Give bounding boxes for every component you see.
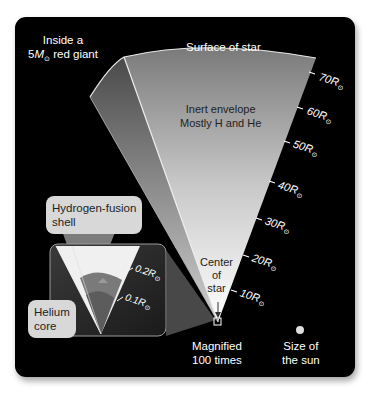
helium-core-callout: Helium core (28, 300, 76, 338)
magnified-line1: Magnified (192, 339, 242, 353)
sun-size-dot (296, 326, 304, 334)
center-line1: Center (200, 256, 233, 269)
title-suffix: red giant (50, 48, 98, 60)
diagram-title: Inside a 5M⊙ red giant (28, 33, 98, 66)
envelope-line1: Inert envelope (180, 102, 261, 116)
hydrogen-line1: Hydrogen-fusion (52, 201, 136, 215)
title-line2: 5M⊙ red giant (28, 47, 98, 66)
hydrogen-line2: shell (52, 215, 136, 229)
center-line3: star (200, 282, 233, 295)
red-giant-diagram: Inside a 5M⊙ red giant Surface of star I… (0, 0, 369, 395)
title-line1: Inside a (28, 33, 98, 47)
hydrogen-fusion-callout: Hydrogen-fusion shell (46, 196, 142, 234)
center-label: Center of star (200, 256, 233, 295)
center-line2: of (200, 269, 233, 282)
sun-line2: the sun (282, 353, 320, 367)
title-mass-symbol: M (34, 48, 44, 60)
surface-label: Surface of star (186, 40, 261, 54)
envelope-line2: Mostly H and He (180, 116, 261, 130)
sun-size-label: Size of the sun (282, 339, 320, 367)
sun-line1: Size of (282, 339, 320, 353)
helium-line2: core (34, 319, 70, 333)
helium-line1: Helium (34, 305, 70, 319)
magnified-label: Magnified 100 times (192, 339, 242, 367)
magnified-line2: 100 times (192, 353, 242, 367)
envelope-label: Inert envelope Mostly H and He (180, 102, 261, 130)
